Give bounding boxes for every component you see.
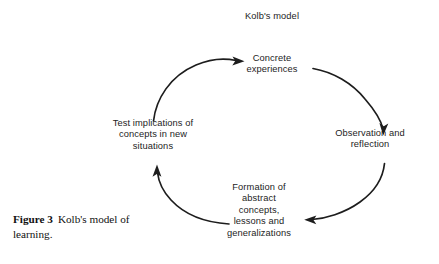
node-test-implications: Test implications of concepts in new sit…: [92, 118, 214, 152]
figure-caption-label: Figure 3: [13, 213, 53, 225]
arrow-concrete-to-observation-path: [313, 69, 383, 130]
node-concrete-experiences: Concrete experiences: [222, 53, 322, 76]
node-observation-and-reflection: Observation and reflection: [312, 128, 428, 151]
figure-caption: Figure 3Kolb's model of learning.: [13, 212, 135, 242]
diagram-title: Kolb's model: [212, 11, 332, 22]
figure-kolb-model: Kolb's model Concrete experiences Observ…: [0, 0, 439, 264]
node-formation-of-abstract-concepts: Formation of abstract concepts, lessons …: [195, 182, 323, 239]
arrowhead-to-test-icon: [153, 165, 162, 177]
